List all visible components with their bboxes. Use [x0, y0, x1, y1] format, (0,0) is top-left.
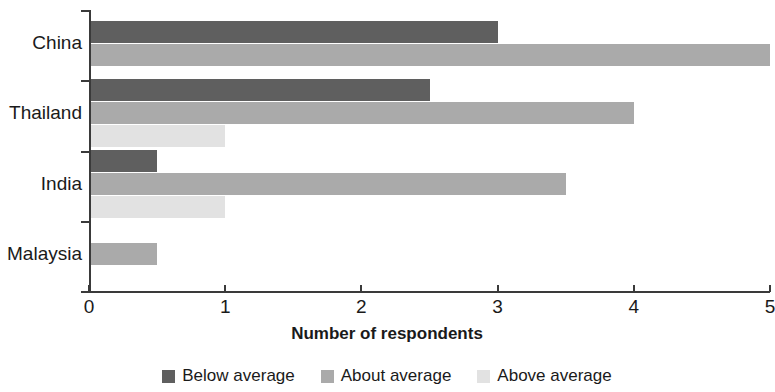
x-axis-tick	[769, 285, 771, 292]
x-axis-tick-label: 4	[629, 296, 640, 318]
x-axis-tick-label: 3	[492, 296, 503, 318]
legend-swatch-icon	[162, 370, 175, 383]
bar-thailand-above-average	[89, 125, 225, 147]
y-axis-tick	[81, 10, 89, 12]
bar-thailand-about-average	[89, 102, 634, 124]
y-axis-label-china: China	[0, 32, 82, 54]
legend-label: Above average	[497, 366, 611, 386]
y-axis-line	[89, 10, 91, 292]
chart-legend: Below averageAbout averageAbove average	[0, 366, 774, 386]
bar-india-about-average	[89, 173, 566, 195]
bar-malaysia-about-average	[89, 243, 157, 265]
legend-swatch-icon	[321, 370, 334, 383]
y-axis-tick	[81, 80, 89, 82]
x-axis-line	[89, 291, 770, 293]
bar-china-about-average	[89, 44, 770, 66]
legend-label: Below average	[182, 366, 294, 386]
legend-item-below-average[interactable]: Below average	[162, 366, 294, 386]
x-axis-tick-label: 2	[356, 296, 367, 318]
legend-label: About average	[341, 366, 452, 386]
bar-china-below-average	[89, 21, 498, 43]
y-axis-label-india: India	[0, 173, 82, 195]
x-axis-tick	[360, 285, 362, 292]
y-axis-label-malaysia: Malaysia	[0, 243, 82, 265]
x-axis-tick	[88, 285, 90, 292]
x-axis-tick-label: 5	[765, 296, 775, 318]
bar-thailand-below-average	[89, 79, 430, 101]
plot-area	[89, 10, 770, 291]
x-axis-tick-label: 0	[84, 296, 95, 318]
bar-india-below-average	[89, 150, 157, 172]
x-axis-title: Number of respondents	[0, 324, 774, 344]
x-axis-tick	[224, 285, 226, 292]
legend-item-about-average[interactable]: About average	[321, 366, 452, 386]
bar-india-above-average	[89, 196, 225, 218]
x-axis-tick	[633, 285, 635, 292]
legend-item-above-average[interactable]: Above average	[477, 366, 611, 386]
y-axis-label-thailand: Thailand	[0, 102, 82, 124]
x-axis-tick	[497, 285, 499, 292]
legend-swatch-icon	[477, 370, 490, 383]
y-axis-tick	[81, 151, 89, 153]
x-axis-tick-label: 1	[220, 296, 231, 318]
y-axis-tick	[81, 221, 89, 223]
